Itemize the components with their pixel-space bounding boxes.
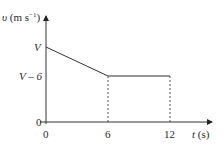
x-tick-6: 6 <box>105 128 111 140</box>
x-tick-12: 12 <box>164 128 175 140</box>
y-tick-0: 0 <box>36 116 42 128</box>
velocity-time-graph: υ (m s−1) V V – 6 0 0 6 12 t (s) <box>0 0 224 146</box>
y-axis-label: υ (m s−1) <box>2 11 41 24</box>
y-tick-V: V <box>34 41 42 53</box>
y-tick-V-minus-6: V – 6 <box>19 70 43 82</box>
x-axis-label: t (s) <box>192 128 210 141</box>
x-tick-0: 0 <box>43 128 49 140</box>
velocity-line <box>46 47 170 76</box>
